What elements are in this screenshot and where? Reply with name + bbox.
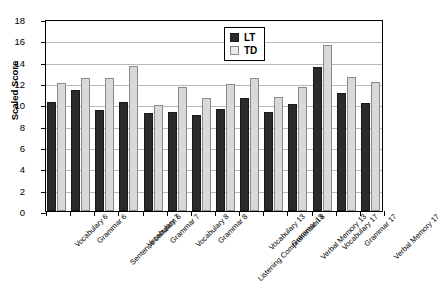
bar-td: [129, 66, 138, 211]
bar-group: [360, 21, 384, 211]
legend-item-lt: LT: [230, 31, 257, 44]
bar-group: [336, 21, 360, 211]
bar-group: [287, 21, 311, 211]
bar-td: [178, 87, 187, 211]
bar-lt: [168, 112, 177, 211]
bar-td: [347, 77, 356, 211]
legend-label-lt: LT: [244, 32, 255, 43]
bar-td: [323, 45, 332, 211]
x-axis-labels: Vocabulary 6Grammar 6Sentence Imitation …: [45, 212, 383, 298]
bar-group: [118, 21, 142, 211]
bar-td: [250, 78, 259, 211]
y-axis-tick-label: 10: [0, 100, 25, 111]
bar-lt: [95, 110, 104, 211]
y-axis-tick-label: 0: [0, 207, 25, 218]
x-axis-tick-label: Verbal Memory 17: [392, 212, 441, 261]
bar-td: [57, 83, 66, 211]
y-axis-tick-label: 18: [0, 15, 25, 26]
bar-td: [274, 97, 283, 211]
y-axis-tick-label: 2: [0, 186, 25, 197]
bar-td: [371, 82, 380, 211]
bar-lt: [240, 98, 249, 211]
bar-td: [298, 87, 307, 211]
bar-lt: [119, 102, 128, 211]
bar-lt: [288, 104, 297, 211]
bar-lt: [361, 103, 370, 211]
bar-group: [167, 21, 191, 211]
bar-group: [312, 21, 336, 211]
bar-td: [154, 105, 163, 211]
bar-group: [94, 21, 118, 211]
y-axis-tick-label: 4: [0, 164, 25, 175]
bar-lt: [71, 90, 80, 211]
bar-td: [81, 78, 90, 211]
bar-td: [202, 98, 211, 211]
legend-swatch-td-icon: [230, 46, 239, 55]
plot-area: 024681012141618: [45, 20, 383, 212]
bar-td: [226, 84, 235, 211]
y-axis-tick-label: 12: [0, 79, 25, 90]
legend-item-td: TD: [230, 44, 257, 57]
legend-swatch-lt-icon: [230, 33, 239, 42]
y-axis-tick-label: 14: [0, 58, 25, 69]
bar-lt: [337, 93, 346, 211]
chart-legend: LT TD: [224, 27, 265, 61]
bar-group: [143, 21, 167, 211]
y-axis-tick-label: 6: [0, 143, 25, 154]
bar-lt: [47, 102, 56, 211]
bar-group: [191, 21, 215, 211]
bar-group: [263, 21, 287, 211]
bar-series-container: [46, 21, 382, 211]
bar-group: [46, 21, 70, 211]
bar-td: [105, 78, 114, 211]
bar-lt: [216, 109, 225, 211]
y-axis-tick-label: 16: [0, 36, 25, 47]
bar-lt: [144, 113, 153, 211]
x-axis-tick: [384, 211, 385, 216]
bar-lt: [313, 67, 322, 211]
y-axis-tick-label: 8: [0, 122, 25, 133]
bar-lt: [192, 115, 201, 211]
bar-lt: [264, 112, 273, 211]
legend-label-td: TD: [244, 45, 257, 56]
bar-group: [70, 21, 94, 211]
